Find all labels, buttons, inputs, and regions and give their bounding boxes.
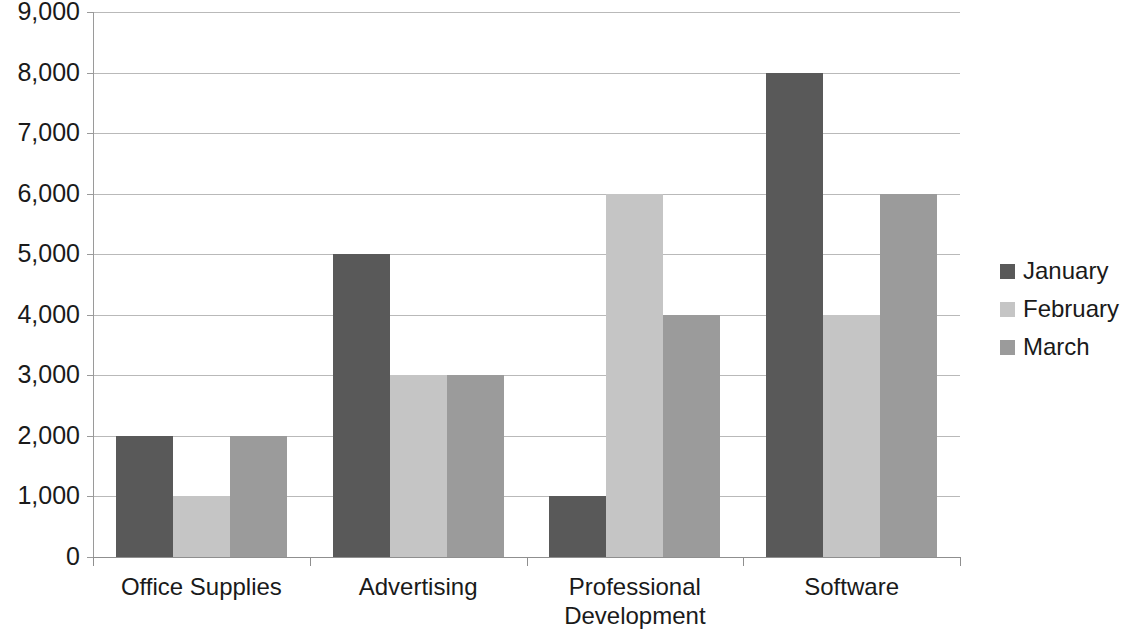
bar-january-software [766,73,823,557]
x-axis-label-line: Development [527,601,744,630]
legend-item-february[interactable]: February [1000,290,1121,328]
bar-february-professional-development [606,194,663,557]
bar-march-software [880,194,937,557]
legend-swatch-icon [1000,302,1015,317]
gridline [93,133,960,134]
y-axis-tick [87,133,93,134]
x-axis-label-line: Advertising [310,572,527,601]
legend-item-january[interactable]: January [1000,252,1121,290]
y-axis-tick-label: 6,000 [0,181,80,206]
legend-swatch-icon [1000,264,1015,279]
y-axis-tick-label: 4,000 [0,302,80,327]
x-axis-category-label: Advertising [310,572,527,601]
bar-january-office-supplies [116,436,173,557]
bar-january-advertising [333,254,390,557]
x-axis-label-line: Office Supplies [93,572,310,601]
x-axis-label-line: Professional [527,572,744,601]
y-axis-tick [87,12,93,13]
bar-chart: 9,0008,0007,0006,0005,0004,0003,0002,000… [0,0,1121,639]
x-axis-tick [310,557,311,566]
gridline [93,194,960,195]
gridline [93,254,960,255]
y-axis-tick [87,254,93,255]
y-axis-tick-label: 7,000 [0,120,80,145]
x-axis-category-label: Software [743,572,960,601]
bar-march-advertising [447,375,504,557]
legend-item-march[interactable]: March [1000,328,1121,366]
legend-label: February [1023,297,1119,321]
x-axis-category-label: ProfessionalDevelopment [527,572,744,630]
bar-february-advertising [390,375,447,557]
y-axis-tick [87,436,93,437]
x-axis-tick [527,557,528,566]
y-axis-tick [87,315,93,316]
y-axis-tick [87,73,93,74]
gridline [93,12,960,13]
y-axis-tick-label: 1,000 [0,483,80,508]
x-axis-tick [960,557,961,566]
y-axis-tick-label: 3,000 [0,362,80,387]
legend-swatch-icon [1000,340,1015,355]
y-axis-tick [87,496,93,497]
x-axis-tick [93,557,94,566]
gridline [93,73,960,74]
y-axis-tick-label: 9,000 [0,0,80,24]
y-axis-tick [87,375,93,376]
legend-label: January [1023,259,1108,283]
x-axis-category-label: Office Supplies [93,572,310,601]
x-axis-label-line: Software [743,572,960,601]
y-axis-tick-label: 5,000 [0,241,80,266]
legend-label: March [1023,335,1090,359]
bar-february-office-supplies [173,496,230,557]
y-axis-tick-label: 0 [0,544,80,569]
y-axis-tick [87,194,93,195]
bar-march-office-supplies [230,436,287,557]
x-axis-tick [743,557,744,566]
bar-february-software [823,315,880,557]
bar-march-professional-development [663,315,720,557]
y-axis-tick-label: 8,000 [0,60,80,85]
y-axis-line [93,12,94,558]
y-axis-tick-label: 2,000 [0,423,80,448]
bar-january-professional-development [549,496,606,557]
chart-legend: JanuaryFebruaryMarch [1000,252,1121,366]
plot-area [93,12,960,557]
